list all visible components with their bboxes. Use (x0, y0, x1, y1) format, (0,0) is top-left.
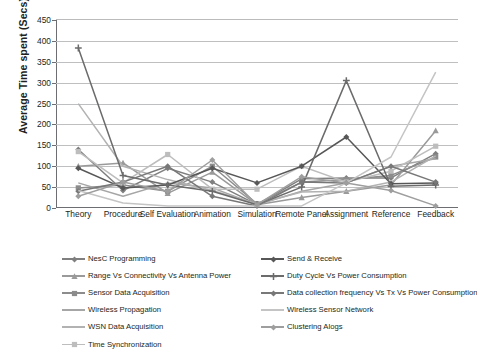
y-tick-label: 50 (17, 182, 51, 192)
legend-key-none-icon (62, 321, 85, 332)
legend-item[interactable]: Data collection frequency Vs Tx Vs Power… (261, 284, 477, 301)
data-point-marker (254, 180, 260, 186)
legend-marker (269, 323, 278, 332)
legend-item[interactable]: Wireless Propagation (62, 301, 231, 318)
legend-label: Time Synchronization (88, 340, 162, 349)
data-point-marker (433, 144, 438, 149)
legend-line (62, 309, 85, 311)
y-tick-label: 350 (17, 57, 51, 67)
legend-key-triangle-icon (62, 270, 85, 281)
y-tick-label: 100 (17, 161, 51, 171)
legend-marker (269, 255, 278, 264)
data-point-marker (76, 149, 81, 154)
data-point-marker (343, 77, 350, 84)
series-lines (56, 20, 458, 208)
plot-area: 050100150200250300350400450 (56, 19, 458, 208)
data-point-marker (388, 169, 393, 174)
y-tick-label: 150 (17, 140, 51, 150)
data-point-marker (75, 193, 81, 199)
x-tick-label: Feedback (403, 209, 469, 220)
legend-line (261, 309, 284, 311)
x-axis-labels: TheoryProcedureSelf EvaluationAnimationS… (56, 209, 458, 243)
legend-label: Send & Receive (287, 254, 342, 263)
legend-marker (269, 272, 278, 281)
legend-key-diamond-icon (261, 253, 284, 264)
y-tick-label: 250 (17, 99, 51, 109)
legend-marker (70, 255, 79, 264)
data-point-marker (433, 128, 439, 134)
data-point-marker (271, 256, 277, 262)
legend-label: Clustering Alogs (287, 322, 343, 331)
legend-column-right: Send & ReceiveDuty Cycle Vs Power Consum… (261, 250, 477, 335)
data-point-marker (72, 256, 78, 262)
data-point-marker (271, 325, 277, 331)
legend-key-diamond-icon (62, 253, 85, 264)
legend-item[interactable]: Send & Receive (261, 250, 477, 267)
legend-label: Data collection frequency Vs Tx Vs Power… (287, 288, 477, 297)
legend-marker (269, 289, 278, 298)
legend-key-diamond-icon (261, 321, 284, 332)
legend-label: Sensor Data Acquisition (88, 288, 170, 297)
y-tick-label: 300 (17, 78, 51, 88)
legend-line (62, 326, 85, 328)
legend-label: Range Vs Connectivity Vs Antenna Power (88, 271, 231, 280)
series-1 (75, 128, 439, 208)
legend-item[interactable]: Duty Cycle Vs Power Consumption (261, 267, 477, 284)
legend-item[interactable]: NesC Programming (62, 250, 231, 267)
legend-marker (70, 272, 79, 281)
legend-marker (70, 340, 79, 349)
data-point-marker (433, 179, 439, 185)
legend-item[interactable]: Wireless Sensor Network (261, 301, 477, 318)
legend-key-none-icon (62, 304, 85, 315)
legend-key-plus-icon (261, 270, 284, 281)
data-point-marker (388, 187, 394, 193)
legend-label: NesC Programming (88, 254, 156, 263)
legend-column-left: NesC ProgrammingRange Vs Connectivity Vs… (62, 250, 231, 353)
data-point-marker (75, 45, 82, 52)
y-tick-label: 400 (17, 36, 51, 46)
data-point-marker (209, 179, 215, 185)
legend-item[interactable]: Sensor Data Acquisition (62, 284, 231, 301)
data-point-marker (72, 342, 77, 347)
legend-item[interactable]: Range Vs Connectivity Vs Antenna Power (62, 267, 231, 284)
data-point-marker (433, 203, 439, 209)
legend-item[interactable]: Time Synchronization (62, 335, 231, 352)
data-point-marker (72, 273, 78, 279)
legend-key-diamond-icon (261, 287, 284, 298)
y-tick-label: 450 (17, 15, 51, 25)
data-point-marker (165, 152, 170, 157)
y-tick-label: 200 (17, 119, 51, 129)
legend-label: WSN Data Acquisition (88, 322, 163, 331)
legend-item[interactable]: Clustering Alogs (261, 318, 477, 335)
series-6 (75, 134, 438, 191)
data-point-marker (388, 163, 394, 169)
legend-key-square-icon (62, 287, 85, 298)
data-point-marker (72, 291, 77, 296)
legend-key-square-icon (62, 339, 85, 350)
data-point-marker (254, 187, 259, 192)
legend-key-none-icon (261, 304, 284, 315)
data-point-marker (270, 273, 277, 280)
legend-label: Wireless Sensor Network (287, 305, 373, 314)
data-point-marker (271, 290, 277, 296)
legend-label: Duty Cycle Vs Power Consumption (287, 271, 407, 280)
legend-marker (70, 289, 79, 298)
legend-label: Wireless Propagation (88, 305, 161, 314)
legend-item[interactable]: WSN Data Acquisition (62, 318, 231, 335)
data-point-marker (120, 172, 127, 179)
